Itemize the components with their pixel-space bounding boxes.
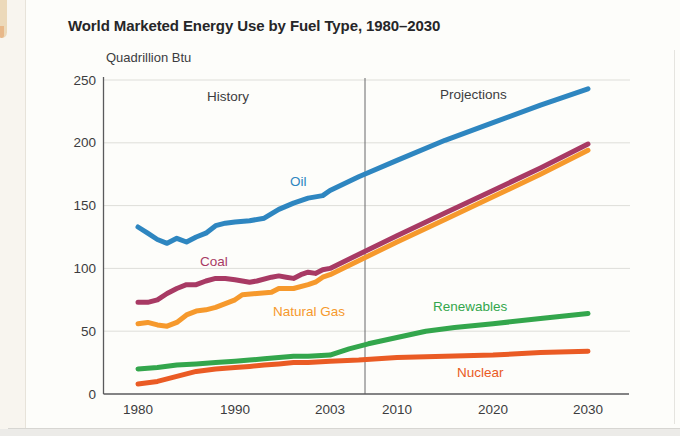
y-tick-label-250: 250 [73, 73, 96, 88]
x-tick-label-2003: 2003 [315, 402, 345, 417]
x-tick-label-1990: 1990 [220, 402, 250, 417]
x-tick-label-2020: 2020 [478, 402, 508, 417]
y-tick-label-100: 100 [73, 261, 96, 276]
y-tick-label-0: 0 [88, 387, 96, 402]
projections-region-annotation: Projections [440, 87, 507, 102]
plot-area: 050100150200250198019902003201020202030 [0, 0, 680, 436]
series-label-nuclear: Nuclear [457, 365, 504, 380]
x-tick-label-2030: 2030 [573, 402, 603, 417]
series-line-nuclear [138, 351, 588, 384]
y-tick-label-50: 50 [81, 324, 96, 339]
x-tick-label-2010: 2010 [382, 402, 412, 417]
series-label-oil: Oil [290, 174, 307, 189]
x-tick-label-1980: 1980 [123, 402, 153, 417]
series-line-coal [138, 144, 588, 302]
y-tick-label-150: 150 [73, 198, 96, 213]
series-label-natural-gas: Natural Gas [273, 304, 345, 319]
series-label-renewables: Renewables [433, 299, 507, 314]
series-line-oil [138, 89, 588, 244]
series-label-coal: Coal [200, 254, 228, 269]
y-tick-label-200: 200 [73, 135, 96, 150]
scanned-report-page: World Marketed Energy Use by Fuel Type, … [0, 0, 680, 436]
history-region-annotation: History [207, 89, 249, 104]
